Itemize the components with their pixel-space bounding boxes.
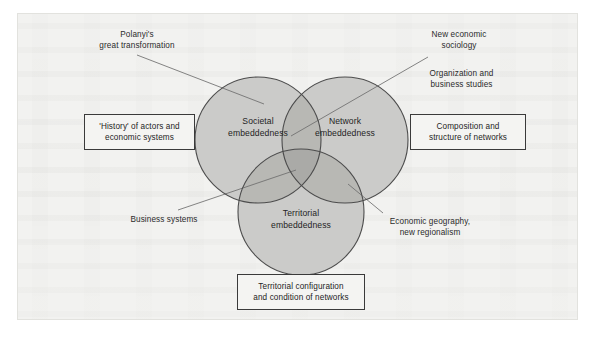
annotation-polanyi: Polanyi's great transformation — [76, 29, 198, 51]
venn-label-territorial: Territorial embeddedness — [259, 208, 343, 231]
annotation-new-economic-sociology: New economic sociology — [404, 29, 514, 51]
annotation-organization-business-studies: Organization and business studies — [404, 68, 519, 90]
venn-label-network: Network embeddedness — [303, 116, 387, 139]
annotation-business-systems: Business systems — [112, 214, 216, 225]
annotation-economic-geography: Economic geography, new regionalism — [370, 216, 490, 238]
callout-history-of-actors: 'History' of actors and economic systems — [84, 114, 195, 150]
callout-territorial-configuration: Territorial configuration and condition … — [237, 274, 365, 310]
venn-label-societal: Societal embeddedness — [216, 116, 300, 139]
callout-composition-structure: Composition and structure of networks — [410, 114, 526, 150]
figure-root: Societal embeddedness Network embeddedne… — [0, 0, 595, 343]
